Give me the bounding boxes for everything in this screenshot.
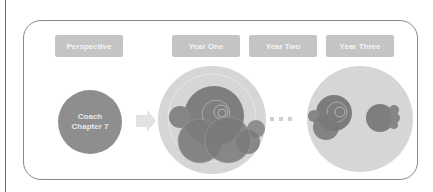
year-one-cluster	[158, 66, 266, 174]
right-arrow-icon	[136, 110, 156, 132]
year-three-cluster	[307, 66, 413, 172]
diagram-graphics	[0, 0, 433, 192]
ellipsis-dots-icon	[270, 117, 292, 121]
